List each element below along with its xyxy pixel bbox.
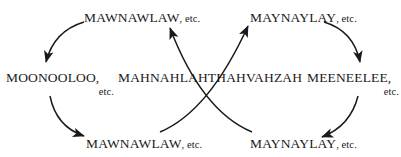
node-word: MAWNAWLAW (86, 136, 182, 151)
node-word: MAYNAYLAY (250, 136, 336, 151)
arc-right-to-bottomright (322, 96, 358, 137)
node-label-bottom-right: MAYNAYLAY, etc. (250, 134, 357, 152)
node-suffix: , etc. (336, 13, 357, 24)
node-suffix: , etc. (180, 13, 201, 24)
node-label-top-right: MAYNAYLAY, etc. (250, 8, 357, 26)
arc-topright-to-right (324, 22, 360, 62)
arc-topleft-to-left (46, 22, 84, 62)
arc-left-to-bottomleft (50, 96, 84, 136)
vowel-shift-diagram: MAWNAWLAW, etc. MAYNAYLAY, etc. MOONOOLO… (0, 0, 401, 157)
node-label-center: MAHNAHLAHTHAHVAHZAH (118, 68, 302, 86)
node-label-right: MEENEELEE, etc. (307, 68, 399, 97)
node-label-left: MOONOOLOO, etc. (6, 68, 114, 97)
node-label-top-left: MAWNAWLAW, etc. (84, 8, 200, 26)
node-word: MEENEELEE, (307, 70, 391, 85)
node-word: MOONOOLOO, (6, 70, 99, 85)
node-word: MAWNAWLAW (84, 10, 180, 25)
node-suffix: etc. (6, 86, 114, 97)
node-suffix: etc. (307, 86, 399, 97)
node-suffix: , etc. (182, 139, 203, 150)
node-word: MAHNAHLAHTHAHVAHZAH (118, 70, 302, 85)
node-suffix: , etc. (336, 139, 357, 150)
node-label-bottom-left: MAWNAWLAW, etc. (86, 134, 202, 152)
node-word: MAYNAYLAY (250, 10, 336, 25)
